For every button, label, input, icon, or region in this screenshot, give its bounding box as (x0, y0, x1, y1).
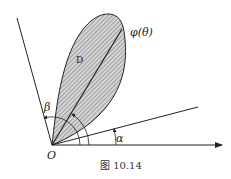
region-label: D (76, 56, 83, 65)
beta-ray (17, 18, 52, 145)
beta-label: β (44, 102, 50, 113)
alpha-label: α (116, 133, 123, 144)
region-d (52, 14, 126, 145)
figure-caption: 图 10.14 (100, 161, 142, 171)
polar-region-diagram (0, 0, 231, 179)
origin-label: O (47, 150, 56, 161)
curve-label: φ(θ) (130, 27, 153, 38)
